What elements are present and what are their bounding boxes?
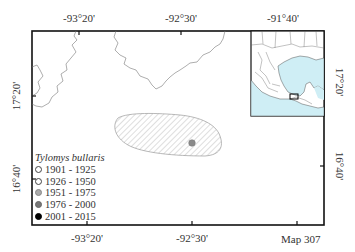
legend-item-label: 2001 - 2015 xyxy=(45,211,96,222)
legend-item-label: 1901 - 1925 xyxy=(45,164,96,175)
left-axis-label: 17°20' xyxy=(11,81,22,111)
right-axis-label: 16°40' xyxy=(334,151,345,181)
legend: Tylomys bullaris 1901 - 1925 1926 - 1950… xyxy=(35,152,105,222)
right-axis-label: 17°20' xyxy=(334,67,345,97)
circle-icon xyxy=(35,201,42,208)
legend-title: Tylomys bullaris xyxy=(35,152,105,163)
bottom-axis-label: -93°20' xyxy=(71,233,103,244)
circle-icon xyxy=(35,166,42,173)
top-axis-label: -91°40' xyxy=(267,13,299,24)
top-axis-label: -93°20' xyxy=(63,13,95,24)
top-axis-label: -92°30' xyxy=(165,13,197,24)
legend-item-label: 1976 - 2000 xyxy=(45,199,96,210)
circle-icon xyxy=(35,213,42,220)
legend-item-label: 1951 - 1975 xyxy=(45,187,96,198)
inset-map xyxy=(251,31,324,116)
circle-icon xyxy=(35,178,42,185)
legend-item: 1926 - 1950 xyxy=(35,176,105,188)
bottom-axis-label: -92°30' xyxy=(176,233,208,244)
circle-icon xyxy=(35,189,42,196)
legend-item: 2001 - 2015 xyxy=(35,210,105,222)
legend-item: 1976 - 2000 xyxy=(35,199,105,211)
left-axis-label: 16°40' xyxy=(11,164,22,194)
legend-item: 1901 - 1925 xyxy=(35,164,105,176)
legend-item: 1951 - 1975 xyxy=(35,187,105,199)
map-number-label: Map 307 xyxy=(281,233,320,245)
legend-item-label: 1926 - 1950 xyxy=(45,176,96,187)
record-point[interactable] xyxy=(189,140,196,147)
